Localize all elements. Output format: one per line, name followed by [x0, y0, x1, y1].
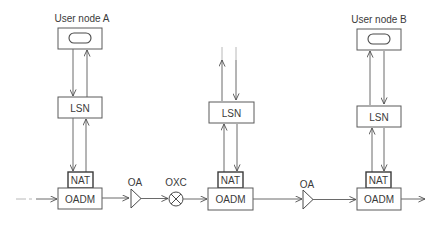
user-node-b: User node B	[351, 14, 407, 50]
lsn-b-label: LSN	[369, 112, 388, 123]
oadm-b-label: OADM	[364, 194, 394, 205]
user-node-a: User node A	[54, 13, 109, 49]
oa-2-label: OA	[300, 179, 315, 190]
oa-2: OA	[300, 179, 315, 209]
network-diagram: User node A LSN NAT OADM OA OXC	[0, 0, 439, 229]
lsn-b: LSN	[357, 106, 401, 127]
oadm-mid-label: OADM	[216, 194, 246, 205]
terminal-pill-icon	[69, 33, 91, 43]
nat-b: NAT	[366, 172, 391, 188]
lsn-mid: LSN	[209, 102, 254, 123]
lsn-mid-label: LSN	[222, 108, 241, 119]
user-node-b-label: User node B	[351, 14, 407, 25]
oxc: OXC	[165, 177, 187, 206]
terminal-pill-icon	[368, 34, 390, 44]
nat-mid: NAT	[218, 172, 243, 188]
nat-a-label: NAT	[71, 175, 90, 186]
oa-1-label: OA	[128, 177, 143, 188]
amplifier-triangle-icon	[303, 190, 313, 209]
amplifier-triangle-icon	[131, 189, 141, 208]
nat-b-label: NAT	[369, 175, 388, 186]
oadm-b: OADM	[357, 188, 401, 210]
oadm-a-label: OADM	[65, 194, 95, 205]
nat-mid-label: NAT	[221, 175, 240, 186]
oxc-label: OXC	[165, 177, 187, 188]
oadm-a: OADM	[58, 188, 102, 209]
oadm-mid: OADM	[208, 188, 253, 210]
oa-1: OA	[128, 177, 143, 208]
nat-a: NAT	[68, 172, 93, 188]
lsn-a: LSN	[58, 97, 102, 118]
lsn-a-label: LSN	[70, 103, 89, 114]
user-node-a-label: User node A	[54, 13, 109, 24]
